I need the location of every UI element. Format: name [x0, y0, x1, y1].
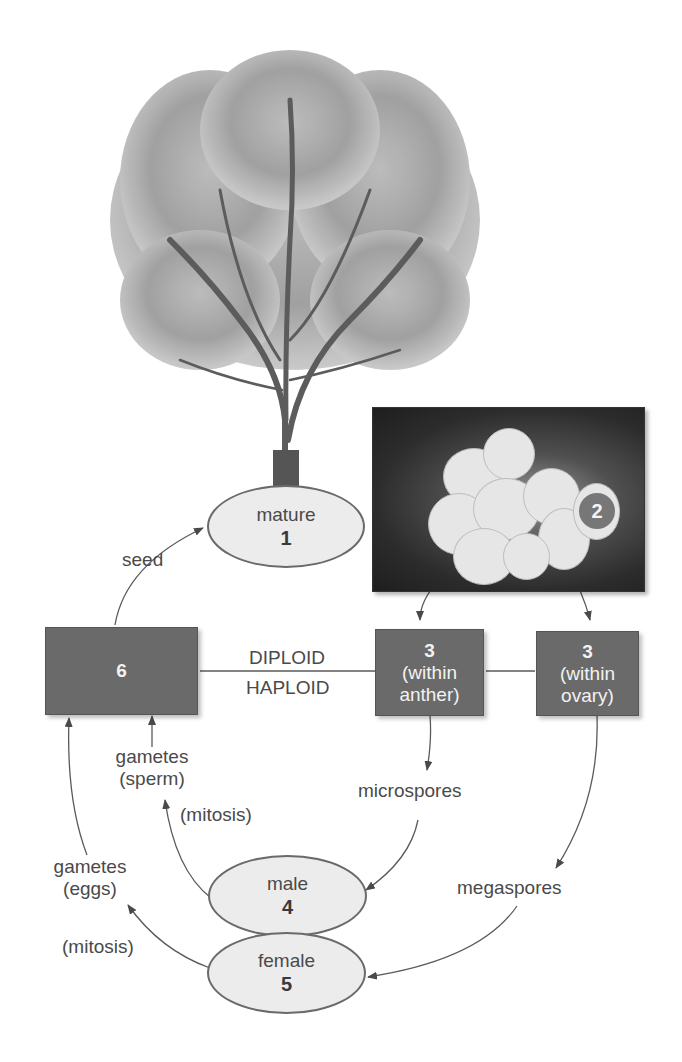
label-seed: seed [122, 549, 163, 571]
node-female: female 5 [207, 932, 366, 1014]
node-zygote-number: 6 [116, 660, 127, 682]
node-mature-label: mature [256, 504, 315, 526]
node-anther-label: (within [402, 662, 457, 684]
label-gametes-eggs-line2: (eggs) [50, 878, 130, 900]
label-mitosis-female: (mitosis) [62, 936, 134, 958]
label-microspores: microspores [358, 780, 461, 802]
node-ovary-label2: ovary) [561, 685, 614, 707]
label-gametes-eggs: gametes (eggs) [50, 856, 130, 900]
label-mitosis-male: (mitosis) [180, 804, 252, 826]
node-ovary-label: (within [560, 663, 615, 685]
node-female-label: female [258, 950, 315, 972]
node-male: male 4 [208, 855, 367, 937]
node-anther: 3 (within anther) [375, 629, 484, 716]
node-mature-number: 1 [280, 526, 291, 550]
node-ovary-number: 3 [582, 641, 593, 663]
node-mature: mature 1 [207, 485, 365, 568]
node-zygote: 6 [45, 627, 198, 715]
node-anther-label2: anther) [399, 684, 459, 706]
node-ovary: 3 (within ovary) [536, 631, 639, 716]
label-megaspores: megaspores [457, 877, 562, 899]
node-female-number: 5 [281, 972, 292, 996]
label-gametes-eggs-line1: gametes [50, 856, 130, 878]
node-male-label: male [267, 873, 308, 895]
node-flower-number: 2 [579, 493, 615, 529]
node-male-number: 4 [282, 895, 293, 919]
label-gametes-sperm-line1: gametes [110, 746, 194, 768]
node-anther-number: 3 [424, 640, 435, 662]
label-gametes-sperm-line2: (sperm) [110, 768, 194, 790]
label-haploid: HAPLOID [246, 677, 329, 699]
label-diploid: DIPLOID [249, 647, 325, 669]
label-gametes-sperm: gametes (sperm) [110, 746, 194, 790]
